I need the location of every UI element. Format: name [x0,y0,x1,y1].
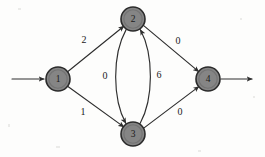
edge-1-to-2 [68,26,124,72]
node-3-label: 3 [131,129,136,139]
edge-weight-1-3: 1 [81,106,86,117]
edge-2-to-3-curved [116,30,126,123]
edge-weight-2-4: 0 [176,35,181,46]
edge-weight-1-2: 2 [82,34,87,45]
node-4[interactable]: 4 [196,67,220,91]
edge-3-to-4 [143,87,198,129]
edge-weight-3-4: 0 [178,106,183,117]
edge-2-to-4 [143,25,199,72]
node-2-label: 2 [131,14,136,24]
graph-figure: 1 2 3 4 2 1 0 6 0 0 [0,0,265,157]
node-4-label: 4 [206,74,211,84]
node-1-label: 1 [56,74,61,84]
graph-canvas: 1 2 3 4 2 1 0 6 0 0 [0,0,265,157]
edge-3-to-2-curved [140,30,150,123]
edge-weight-2-3: 0 [103,70,108,81]
edge-1-to-3 [68,86,124,127]
node-3[interactable]: 3 [121,122,145,146]
node-1[interactable]: 1 [46,67,70,91]
edge-weight-3-2: 6 [157,69,162,80]
node-2[interactable]: 2 [121,7,145,31]
